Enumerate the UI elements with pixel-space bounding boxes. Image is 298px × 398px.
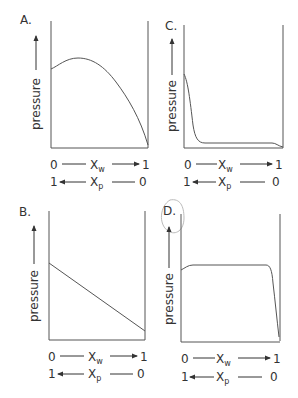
panel-label-d: D. [163,204,176,218]
panel-a: A. pressure 0 Xw 1 1 Xp 0 [20,13,150,191]
y-axis-label-c: pressure [165,80,179,132]
xp-right-b: 0 [137,367,145,381]
xw-right-a: 1 [142,158,150,172]
y-axis-label-a: pressure [29,78,43,130]
y-axis-label-b: pressure [27,270,41,322]
xp-left-c: 1 [183,175,191,189]
panel-d: D. pressure 0 Xw 1 1 Xp 0 [161,200,280,386]
xw-label-a: Xw [90,158,105,174]
xw-left-c: 0 [184,158,192,172]
xp-label-d: Xp [216,370,229,386]
panel-label-a: A. [20,13,32,27]
pressure-curve-d [181,265,279,337]
plot-frame-a [51,21,148,148]
xp-right-c: 0 [272,175,280,189]
pressure-line-b [49,263,145,331]
xw-left-b: 0 [48,350,56,364]
xw-label-b: Xw [88,350,103,366]
xp-label-a: Xp [90,175,103,191]
pressure-curve-a [51,58,148,145]
xw-label-c: Xw [218,158,233,174]
xp-left-a: 1 [50,175,58,189]
diagram-canvas: A. pressure 0 Xw 1 1 Xp 0 C. pressure 0 … [0,0,298,398]
xw-label-d: Xw [216,352,231,368]
xw-left-d: 0 [181,352,189,366]
pressure-curve-c [184,74,283,147]
xp-left-b: 1 [48,367,56,381]
xp-right-a: 0 [139,175,147,189]
xp-left-d: 1 [181,370,189,384]
xw-right-c: 1 [275,158,283,172]
xw-left-a: 0 [50,158,58,172]
panel-label-b: B. [19,205,31,219]
y-axis-label-d: pressure [162,273,176,325]
panel-label-c: C. [165,19,177,33]
panel-b: B. pressure 0 Xw 1 1 Xp 0 [19,205,148,383]
xp-right-d: 0 [270,370,278,384]
panel-c: C. pressure 0 Xw 1 1 Xp 0 [165,19,283,191]
xw-right-d: 1 [273,352,281,366]
xw-right-b: 1 [140,350,148,364]
plot-frame-c [184,25,283,148]
plot-frame-d [181,214,280,342]
xp-label-b: Xp [88,367,101,383]
xp-label-c: Xp [218,175,231,191]
